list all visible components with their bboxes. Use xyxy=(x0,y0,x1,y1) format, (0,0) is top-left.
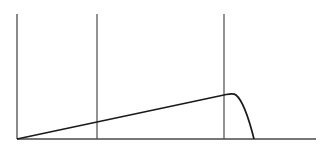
diagram-canvas xyxy=(0,0,334,147)
ramp-curve xyxy=(17,94,254,139)
diagram-svg xyxy=(0,0,334,147)
